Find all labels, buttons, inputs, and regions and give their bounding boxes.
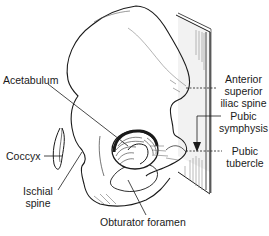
label-acetabulum: Acetabulum	[3, 74, 58, 86]
label-obturator-foramen: Obturator foramen	[100, 216, 186, 228]
acetabulum-socket	[112, 131, 158, 169]
label-anterior-superior-iliac-spine: Anterior superior iliac spine	[218, 73, 269, 109]
label-coccyx: Coccyx	[6, 150, 40, 162]
label-pubic-symphysis-line-1: Pubic	[218, 110, 269, 122]
acetabulum-leader	[48, 84, 128, 146]
pelvis-diagram: Acetabulum Anterior superior iliac spine…	[0, 0, 269, 236]
vertical-plane	[176, 13, 211, 194]
label-pubic-tubercle: Pubic tubercle	[224, 145, 266, 169]
label-pubic-tubercle-line-2: tubercle	[224, 157, 266, 169]
label-asis-line-2: superior	[218, 85, 269, 97]
label-pubic-symphysis: Pubic symphysis	[218, 110, 269, 134]
label-asis-line-3: iliac spine	[218, 97, 269, 109]
coccyx-shape	[53, 128, 64, 169]
obturator-foramen-leader	[128, 180, 146, 215]
label-ischial-spine: Ischial spine	[20, 185, 56, 209]
label-pubic-symphysis-line-2: symphysis	[218, 122, 269, 134]
pelvis-outline	[67, 6, 189, 206]
label-ischial-spine-line-1: Ischial	[20, 185, 56, 197]
label-pubic-tubercle-line-1: Pubic	[224, 145, 266, 157]
label-asis-line-1: Anterior	[218, 73, 269, 85]
label-ischial-spine-line-2: spine	[20, 197, 56, 209]
